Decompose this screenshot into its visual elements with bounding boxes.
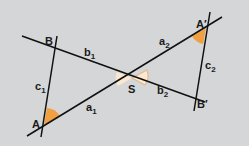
label-S: S xyxy=(128,83,135,95)
label-B: B xyxy=(45,35,53,47)
label-A-prime: A′ xyxy=(196,18,207,30)
geometry-figure: B A S A′ B′ b1 c1 a1 a2 b2 c2 xyxy=(0,0,249,146)
label-B-prime: B′ xyxy=(197,98,208,110)
label-A: A xyxy=(32,118,40,130)
